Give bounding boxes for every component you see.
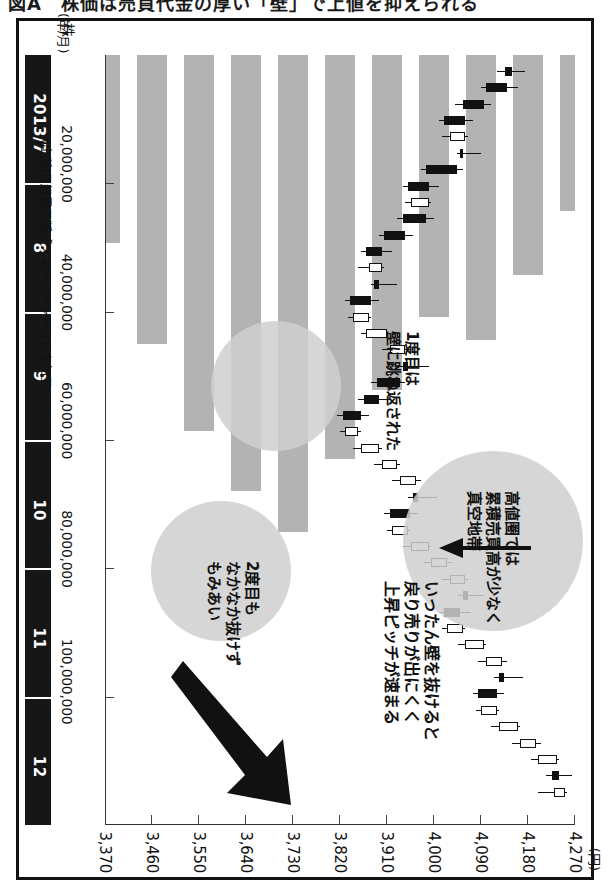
- candlestick: [105, 116, 575, 125]
- candlestick: [105, 329, 575, 338]
- price-tick-label: 3,550: [190, 832, 208, 873]
- volume-tick-mark: [106, 312, 114, 313]
- thick-breakout-arrow-icon: [167, 661, 291, 811]
- candlestick: [105, 83, 575, 92]
- candle-body: [505, 67, 513, 76]
- price-tick-mark: [433, 815, 434, 824]
- candlestick: [105, 149, 575, 158]
- candlestick: [105, 165, 575, 174]
- candlestick: [105, 345, 575, 354]
- candlestick: [105, 411, 575, 420]
- candle-body: [366, 247, 382, 256]
- price-tick-label: 3,640: [237, 832, 255, 873]
- month-separator: [25, 440, 51, 442]
- candle-body: [486, 657, 502, 666]
- candle-body: [350, 296, 371, 305]
- price-tick-label: 4,180: [519, 832, 537, 873]
- volume-tick-label: 40,000,000: [59, 254, 75, 331]
- candle-body: [499, 673, 504, 682]
- volume-tick-label: 60,000,000: [59, 382, 75, 459]
- price-tick-mark: [386, 815, 387, 824]
- volume-by-price-bar: [184, 55, 215, 431]
- candlestick: [105, 100, 575, 109]
- candle-body: [486, 83, 507, 92]
- price-tick-mark: [245, 815, 246, 824]
- candle-body: [499, 722, 517, 731]
- thin-down-arrow-icon: [435, 537, 531, 559]
- figure-caption: 図A 株価は売買代金の厚い「壁」で上値を抑えられる: [8, 0, 479, 14]
- month-label: 11: [30, 628, 48, 650]
- price-tick-label: 3,910: [378, 832, 396, 873]
- candle-body: [426, 165, 457, 174]
- source-note: (出所)日経電子版「スマートチャート」を加工: [38, 139, 55, 388]
- month-label: 10: [30, 499, 48, 521]
- candle-body: [374, 280, 379, 289]
- price-tick-label: 3,460: [143, 832, 161, 873]
- figure-caption-strip: 図A 株価は売買代金の厚い「壁」で上値を抑えられる: [0, 0, 614, 14]
- candlestick: [105, 427, 575, 436]
- candlestick: [105, 247, 575, 256]
- candle-body: [353, 313, 369, 322]
- month-label: 12: [30, 756, 48, 778]
- candle-body: [364, 395, 380, 404]
- price-tick-label: 3,370: [96, 832, 114, 873]
- candle-body: [384, 231, 405, 240]
- candlestick: [105, 214, 575, 223]
- volume-tick-mark: [106, 697, 114, 698]
- candlestick: [105, 132, 575, 141]
- price-tick-label: 4,270: [566, 832, 584, 873]
- candlestick: [105, 198, 575, 207]
- volume-tick-label: 80,000,000: [59, 510, 75, 587]
- price-tick-mark: [151, 815, 152, 824]
- candlestick: [105, 280, 575, 289]
- price-tick-label: 3,730: [284, 832, 302, 873]
- candle-body: [343, 411, 361, 420]
- volume-tick-mark: [106, 568, 114, 569]
- price-tick-mark: [527, 815, 528, 824]
- candle-body: [400, 476, 416, 485]
- volume-tick-label: 20,000,000: [59, 125, 75, 202]
- price-tick-mark: [574, 815, 575, 824]
- candle-body: [361, 444, 379, 453]
- price-tick-mark: [292, 815, 293, 824]
- candle-body: [481, 706, 497, 715]
- candlestick: [105, 182, 575, 191]
- candle-body: [552, 771, 560, 780]
- chart-frame: (円) 3,3703,4603,5503,6403,7303,8203,9104…: [16, 18, 594, 880]
- price-tick-mark: [339, 815, 340, 824]
- volume-tick-mark: [106, 183, 114, 184]
- candle-body: [444, 116, 465, 125]
- candle-body: [478, 689, 496, 698]
- candle-body: [369, 263, 382, 272]
- callout-blob-first: [211, 321, 341, 451]
- candle-body: [538, 755, 556, 764]
- candlestick: [105, 313, 575, 322]
- candle-body: [382, 460, 398, 469]
- month-separator: [25, 697, 51, 699]
- candlestick: [105, 296, 575, 305]
- candle-body: [465, 640, 483, 649]
- candle-body: [408, 182, 429, 191]
- annotation-second-congestion: 2度目も なかなか抜けず もみあい: [205, 561, 261, 666]
- rotated-chart-canvas: (円) 3,3703,4603,5503,6403,7303,8203,9104…: [19, 21, 591, 877]
- annotation-breakout: いったん壁を抜けると 戻り売りが出にくく 上昇ピッチが速まる: [381, 581, 441, 741]
- candle-body: [554, 788, 564, 797]
- price-tick-mark: [198, 815, 199, 824]
- price-tick-label: 4,090: [472, 832, 490, 873]
- candlestick: [105, 640, 575, 649]
- chart-page: 図A 株価は売買代金の厚い「壁」で上値を抑えられる (円) 3,3703,460…: [0, 0, 614, 896]
- candlestick: [105, 362, 575, 371]
- candlestick: [105, 231, 575, 240]
- volume-tick-mark: [106, 440, 114, 441]
- price-tick-mark: [480, 815, 481, 824]
- candlestick: [105, 67, 575, 76]
- candle-body: [411, 198, 429, 207]
- annotation-first-rejection: 1度目は 壁に跳ね返された: [384, 331, 422, 451]
- month-separator: [25, 568, 51, 570]
- candle-body: [345, 427, 358, 436]
- candlestick: [105, 263, 575, 272]
- candle-body: [403, 214, 427, 223]
- candle-body: [463, 100, 484, 109]
- price-tick-label: 4,000: [425, 832, 443, 873]
- volume-tick-label: 100,000,000: [59, 639, 75, 725]
